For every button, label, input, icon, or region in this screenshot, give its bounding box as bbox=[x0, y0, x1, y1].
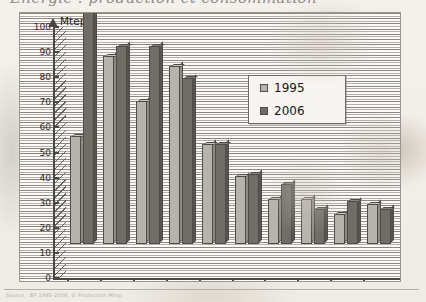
bar-side bbox=[292, 180, 295, 243]
bar-face bbox=[169, 66, 180, 244]
bar-group bbox=[133, 27, 166, 244]
bar-series-container bbox=[67, 27, 396, 244]
x-axis-line bbox=[53, 278, 401, 280]
bar-face bbox=[380, 209, 391, 244]
bar-france-1995 bbox=[301, 199, 312, 244]
x-tick-mark bbox=[264, 278, 266, 282]
bar-canada-2006 bbox=[116, 46, 127, 244]
bar-venez-1995 bbox=[334, 214, 345, 244]
y-tick-label: 90 bbox=[40, 47, 51, 57]
y-tick-mark bbox=[53, 76, 59, 78]
bar-face bbox=[182, 78, 193, 244]
x-tick-mark bbox=[297, 278, 299, 282]
bar-face bbox=[83, 12, 94, 244]
bar-face bbox=[347, 201, 358, 244]
x-tick-mark bbox=[363, 278, 365, 282]
legend-swatch-icon-1995 bbox=[260, 84, 268, 92]
bar-usa-2006 bbox=[182, 78, 193, 244]
bar-group bbox=[199, 27, 232, 244]
bar-group bbox=[330, 27, 363, 244]
bar-face bbox=[367, 204, 378, 244]
bar-face bbox=[136, 101, 147, 244]
legend-label-2006: 2006 bbox=[274, 104, 305, 118]
y-axis-tick-labels: 0102030405060708090100 bbox=[20, 13, 51, 279]
bar-face bbox=[235, 176, 246, 244]
y-tick-mark bbox=[53, 26, 59, 28]
bar-face bbox=[301, 199, 312, 244]
legend-swatch-icon-2006 bbox=[260, 107, 268, 115]
y-tick-mark bbox=[53, 202, 59, 204]
bar-russie-2006 bbox=[215, 144, 226, 244]
bar-france-2006 bbox=[314, 209, 325, 244]
y-tick-label: 70 bbox=[40, 97, 51, 107]
bar-norvge-1995 bbox=[235, 176, 246, 244]
bar-face bbox=[268, 199, 279, 244]
y-tick-mark bbox=[53, 227, 59, 229]
legend-item-2006: 2006 bbox=[249, 99, 345, 122]
bar-group bbox=[297, 27, 330, 244]
y-tick-mark bbox=[53, 252, 59, 254]
x-tick-mark bbox=[330, 278, 332, 282]
bar-venez-2006 bbox=[347, 201, 358, 244]
y-tick-label: 80 bbox=[40, 72, 51, 82]
bar-inde-1995 bbox=[268, 199, 279, 244]
y-tick-label: 40 bbox=[40, 173, 51, 183]
x-tick-mark bbox=[232, 278, 234, 282]
bar-face bbox=[248, 174, 259, 244]
y-tick-mark bbox=[53, 101, 59, 103]
bar-side bbox=[226, 140, 229, 243]
bar-face bbox=[215, 144, 226, 244]
bar-group bbox=[100, 27, 133, 244]
bar-sude-2006 bbox=[380, 209, 391, 244]
bar-side bbox=[127, 42, 130, 243]
y-tick-mark bbox=[53, 177, 59, 179]
legend-item-1995: 1995 bbox=[249, 76, 345, 99]
bar-brsil-1995 bbox=[136, 101, 147, 244]
bar-group bbox=[67, 27, 100, 244]
bar-side bbox=[259, 170, 262, 243]
legend-label-1995: 1995 bbox=[274, 81, 305, 95]
bar-side bbox=[325, 205, 328, 243]
y-tick-mark bbox=[53, 152, 59, 154]
x-tick-mark bbox=[133, 278, 135, 282]
bar-group bbox=[264, 27, 297, 244]
bar-chine-1995 bbox=[70, 136, 81, 244]
y-tick-mark bbox=[53, 51, 59, 53]
y-axis-unit-label: Mtep bbox=[60, 15, 86, 27]
bar-side bbox=[391, 205, 394, 243]
bar-canada-1995 bbox=[103, 56, 114, 244]
y-tick-label: 10 bbox=[40, 248, 51, 258]
source-note: Source : BP 1995-2006, © Production Mtep bbox=[6, 292, 122, 298]
chart-plot-area: Mtep 0102030405060708090100 ChineCanadaB… bbox=[19, 12, 401, 282]
bar-group bbox=[166, 27, 199, 244]
x-tick-mark bbox=[166, 278, 168, 282]
y-tick-label: 30 bbox=[40, 198, 51, 208]
bar-side bbox=[358, 197, 361, 243]
y-tick-label: 60 bbox=[40, 122, 51, 132]
y-tick-label: 20 bbox=[40, 223, 51, 233]
bar-russie-1995 bbox=[202, 144, 213, 244]
bar-face bbox=[281, 184, 292, 244]
footer-divider bbox=[4, 289, 419, 290]
bar-side bbox=[94, 12, 97, 243]
chart-legend: 1995 2006 bbox=[248, 75, 346, 124]
bar-face bbox=[116, 46, 127, 244]
bar-face bbox=[314, 209, 325, 244]
y-tick-mark bbox=[53, 126, 59, 128]
bar-face bbox=[70, 136, 81, 244]
bar-group bbox=[232, 27, 265, 244]
bar-group bbox=[363, 27, 396, 244]
cropped-title-text: Énergie : production et consommation bbox=[10, 0, 317, 7]
y-tick-mark bbox=[53, 277, 59, 279]
bar-sude-1995 bbox=[367, 204, 378, 244]
x-tick-mark bbox=[100, 278, 102, 282]
bar-norvge-2006 bbox=[248, 174, 259, 244]
y-tick-label: 50 bbox=[40, 148, 51, 158]
bar-chine-2006 bbox=[83, 12, 94, 244]
bar-face bbox=[103, 56, 114, 244]
cropped-header-strip: Énergie : production et consommation bbox=[0, 0, 426, 11]
bar-face bbox=[334, 214, 345, 244]
bar-face bbox=[149, 46, 160, 244]
x-tick-mark bbox=[199, 278, 201, 282]
bar-inde-2006 bbox=[281, 184, 292, 244]
